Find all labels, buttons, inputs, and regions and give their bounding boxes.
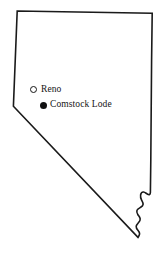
nevada-map-figure: Reno Comstock Lode — [0, 0, 165, 254]
filled-circle-marker — [40, 102, 47, 109]
map-label-comstock-lode: Comstock Lode — [50, 99, 112, 110]
map-label-reno: Reno — [41, 84, 61, 95]
nevada-state-outline — [0, 0, 165, 254]
open-circle-marker — [30, 86, 37, 93]
nevada-border-path — [13, 11, 152, 237]
